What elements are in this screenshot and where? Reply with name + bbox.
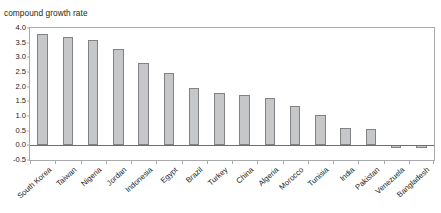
chart-title — [0, 0, 441, 2]
x-tick-mark — [182, 160, 183, 164]
x-tick-mark — [81, 160, 82, 164]
bar — [138, 63, 149, 145]
x-tick-mark — [409, 160, 410, 164]
y-tick-label: 0.5 — [15, 127, 26, 135]
x-tick-label: Turkey — [207, 166, 229, 187]
x-tick-label: India — [338, 166, 356, 183]
x-tick-label: Tunisia — [307, 166, 330, 188]
bar — [265, 98, 276, 145]
x-tick-label: Brazil — [185, 166, 204, 185]
x-tick-mark — [30, 160, 31, 164]
x-tick-mark — [308, 160, 309, 164]
plot-area: 4.03.53.02.52.01.51.00.50.0-0.5 — [29, 27, 435, 161]
y-tick-mark — [27, 72, 30, 73]
x-tick-mark — [207, 160, 208, 164]
bar — [214, 93, 225, 146]
bar — [189, 88, 200, 145]
y-tick-label: -0.5 — [13, 156, 26, 164]
x-tick-mark — [106, 160, 107, 164]
x-tick-label: Morocco — [278, 166, 305, 191]
x-tick-mark — [433, 160, 434, 164]
x-tick-mark — [156, 160, 157, 164]
y-tick-label: 0.0 — [15, 142, 26, 150]
bar — [315, 115, 326, 146]
x-tick-mark — [358, 160, 359, 164]
x-tick-label: Nigeria — [80, 166, 103, 188]
x-tick-label: South Korea — [16, 166, 53, 200]
x-tick-mark — [257, 160, 258, 164]
x-axis-labels: South KoreaTaiwanNigeriaJordanIndonesiaE… — [29, 166, 435, 213]
bar — [340, 128, 351, 146]
bar — [366, 129, 377, 145]
y-tick-mark — [27, 116, 30, 117]
y-tick-mark — [27, 57, 30, 58]
x-tick-label: China — [235, 166, 255, 185]
bar — [113, 49, 124, 146]
y-tick-mark — [27, 130, 30, 131]
y-tick-label: 4.0 — [15, 24, 26, 32]
bar-chart: compound growth rate 4.03.53.02.52.01.51… — [0, 0, 441, 213]
y-tick-mark — [27, 86, 30, 87]
y-tick-mark — [27, 42, 30, 43]
y-tick-label: 3.0 — [15, 54, 26, 62]
x-tick-label: Taiwan — [55, 166, 78, 188]
x-tick-mark — [55, 160, 56, 164]
y-tick-label: 3.5 — [15, 39, 26, 47]
x-tick-mark — [384, 160, 385, 164]
y-tick-mark — [27, 101, 30, 102]
y-tick-label: 2.0 — [15, 83, 26, 91]
y-tick-label: 2.5 — [15, 68, 26, 76]
bar — [63, 37, 74, 146]
y-tick-mark — [27, 28, 30, 29]
x-tick-label: Jordan — [106, 166, 129, 187]
zero-baseline — [30, 145, 434, 146]
bar — [37, 34, 48, 145]
bar — [88, 40, 99, 146]
y-tick-label: 1.0 — [15, 112, 26, 120]
bars-layer — [30, 28, 434, 160]
y-axis-label: compound growth rate — [4, 8, 88, 18]
bar — [239, 95, 250, 145]
bar — [164, 73, 175, 145]
x-tick-label: Egypt — [159, 166, 179, 185]
x-tick-mark — [131, 160, 132, 164]
x-tick-mark — [283, 160, 284, 164]
x-tick-mark — [333, 160, 334, 164]
x-tick-label: Indonesia — [124, 166, 154, 194]
x-tick-mark — [232, 160, 233, 164]
bar — [290, 106, 301, 146]
y-tick-label: 1.5 — [15, 98, 26, 106]
